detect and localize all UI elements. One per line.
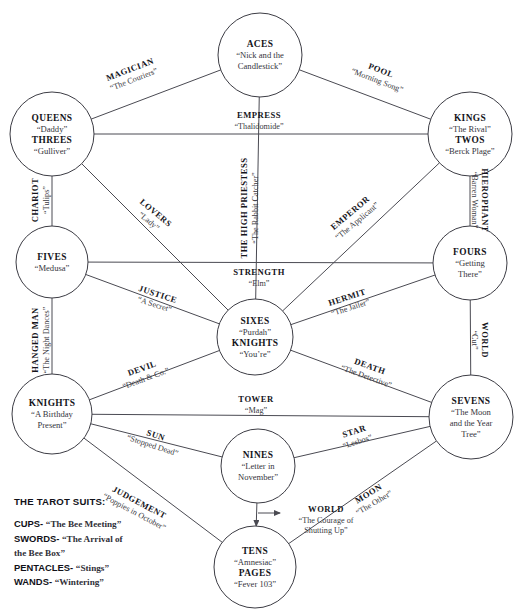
edge-label-high-priestess: THE HIGH PRIESTESS“The Rabbit Catcher”	[239, 157, 260, 258]
node-poem-title: “Daddy”	[37, 124, 68, 134]
legend-suit-name: WANDS-	[14, 576, 55, 587]
node-label: NINES	[243, 450, 274, 460]
edge-trump-name: EMPRESS	[237, 110, 281, 120]
legend-suit-work: “The Arrival of	[62, 534, 124, 544]
edge-label-hermit: HERMIT“The Jailer”	[327, 286, 372, 318]
node-sixes-knights[interactable]: SIXES“Purdah”KNIGHTS“You’re”	[217, 299, 293, 375]
node-poem-title: “Fever 103”	[234, 579, 276, 589]
edge-poem-title: “Mag”	[245, 406, 268, 415]
edge-poem-title: Shutting Up”	[304, 526, 348, 535]
node-poem-title: “A Birthday	[31, 409, 73, 419]
edge-label-world-right: WORLD“Cut”	[470, 322, 491, 358]
node-poem-title: Present”	[37, 420, 66, 430]
node-poem-title: There”	[458, 269, 482, 279]
edge-trump-name: THE HIGH PRIESTESS	[239, 157, 249, 258]
node-poem-title: “Berck Plage”	[445, 146, 495, 156]
edge-label-strength: STRENGTH“Elm”	[233, 267, 285, 288]
node-sevens[interactable]: SEVENS“The Moonand the YearTree”	[429, 375, 513, 459]
node-label: KINGS	[454, 113, 486, 123]
edge-poem-title: “Tulips”	[42, 186, 51, 214]
legend-suit-row: PENTACLES- “Stings”	[14, 562, 109, 573]
edge-label-death: DEATH“The Detective”	[340, 352, 398, 390]
node-knights-left[interactable]: KNIGHTS“A BirthdayPresent”	[12, 374, 92, 454]
edge-label-pool: POOL“Morning Song”	[350, 56, 409, 95]
node-label: THREES	[32, 135, 72, 145]
node-label: FIVES	[37, 252, 67, 262]
edge-trump-name: HANGED MAN	[30, 307, 40, 373]
node-aces[interactable]: ACES“Nick and theCandlestick”	[218, 13, 302, 97]
edge-label-lovers: LOVERS“Lady”	[131, 197, 174, 237]
node-queens-threes[interactable]: QUEENS“Daddy”THREES“Gulliver”	[10, 92, 94, 176]
edge-tower	[92, 414, 429, 416]
legend-heading: THE TAROT SUITS:	[14, 496, 106, 507]
edge-poem-title: “Barren Woman”	[470, 172, 479, 229]
edge-trump-name: STRENGTH	[233, 267, 285, 277]
edge-label-star: STAR“Lesbos”	[338, 422, 374, 451]
node-label: QUEENS	[32, 113, 73, 123]
node-label: KNIGHTS	[29, 398, 76, 408]
edge-world-center	[256, 503, 257, 526]
edge-poem-title: “Cut”	[470, 330, 479, 349]
node-poem-title: “The Rival”	[449, 124, 491, 134]
edge-label-devil: DEVIL“Death & Co.”	[117, 355, 170, 391]
edge-label-emperor: EMPEROR“The Applicant”	[326, 191, 381, 242]
legend-suit-name: SWORDS-	[14, 533, 62, 544]
edge-trump-name: WORLD	[308, 504, 344, 514]
edge-trump-name: TOWER	[238, 394, 274, 404]
edge-label-magician: MAGICIAN“The Couriers”	[105, 55, 160, 92]
edge-poem-title: “The Rabbit Catcher”	[251, 172, 260, 244]
node-label: KNIGHTS	[232, 338, 279, 348]
legend-suit-work: “Wintering”	[55, 577, 105, 587]
node-tens-pages[interactable]: TENS“Amnesiac”PAGES“Fever 103”	[214, 526, 296, 608]
edge-label-world-center: WORLD“The Courage ofShutting Up”	[298, 504, 353, 535]
legend-suit-name: PENTACLES-	[14, 562, 76, 573]
edge-trump-name: CHARIOT	[30, 178, 40, 223]
node-poem-title: “Letter in	[241, 461, 275, 471]
node-poem-title: Tree”	[461, 429, 480, 439]
node-kings-twos[interactable]: KINGS“The Rival”TWOS“Berck Plage”	[428, 92, 512, 176]
node-label: SEVENS	[452, 396, 491, 406]
legend-suit-work: “The Bee Meeting”	[46, 519, 122, 529]
tarot-diagram-canvas: ACES“Nick and theCandlestick”QUEENS“Dadd…	[0, 0, 523, 614]
node-label: PAGES	[239, 568, 272, 578]
legend-suit-work: the Bee Box”	[14, 548, 65, 558]
node-poem-title: Candlestick”	[238, 61, 283, 71]
edge-trump-name: HIEROPHANT	[480, 168, 490, 232]
node-poem-title: “Medusa”	[35, 263, 70, 273]
edge-label-moon: MOON“The Other”	[348, 478, 394, 517]
edge-label-hanged-man: HANGED MAN“The Night Dances”	[30, 306, 51, 373]
node-poem-title: “Nick and the	[236, 50, 284, 60]
node-poem-title: “You’re”	[239, 349, 270, 359]
node-label: ACES	[247, 39, 274, 49]
edge-strength	[88, 262, 433, 263]
edge-label-chariot: CHARIOT“Tulips”	[30, 178, 51, 223]
node-poem-title: “Gulliver”	[34, 146, 70, 156]
node-label: TWOS	[455, 135, 485, 145]
legend-suit-row: SWORDS- “The Arrival of	[14, 533, 124, 544]
edge-poem-title: “The Courage of	[298, 516, 353, 525]
legend-suit-row: WANDS- “Wintering”	[14, 576, 104, 587]
tarot-diagram: ACES“Nick and theCandlestick”QUEENS“Dadd…	[0, 0, 523, 614]
node-fives[interactable]: FIVES“Medusa”	[16, 226, 88, 298]
node-label: TENS	[242, 546, 268, 556]
node-label: SIXES	[240, 316, 269, 326]
node-poem-title: “Amnesiac”	[234, 557, 276, 567]
node-label: FOURS	[453, 247, 487, 257]
node-poem-title: “Purdah”	[239, 327, 271, 337]
edge-poem-title: “Elm”	[249, 279, 270, 288]
node-fours[interactable]: FOURS“GettingThere”	[433, 226, 507, 300]
edge-label-justice: JUSTICE“A Secret”	[134, 283, 178, 315]
node-poem-title: November”	[238, 472, 278, 482]
legend-suit-name: CUPS-	[14, 518, 46, 529]
edge-label-tower: TOWER“Mag”	[238, 394, 274, 415]
edge-trump-name: WORLD	[480, 322, 490, 358]
legend-suit-work: “Stings”	[76, 563, 110, 573]
edge-poem-title: “The Night Dances”	[42, 306, 51, 373]
edge-poem-title: “Thalidomide”	[234, 122, 283, 131]
legend-suit-row: the Bee Box”	[14, 548, 65, 558]
legend-layer: THE TAROT SUITS:CUPS- “The Bee Meeting”S…	[14, 496, 124, 587]
legend-suit-row: CUPS- “The Bee Meeting”	[14, 518, 122, 529]
node-poem-title: and the Year	[450, 418, 493, 428]
node-poem-title: “The Moon	[451, 407, 492, 417]
node-nines[interactable]: NINES“Letter inNovember”	[221, 429, 295, 503]
